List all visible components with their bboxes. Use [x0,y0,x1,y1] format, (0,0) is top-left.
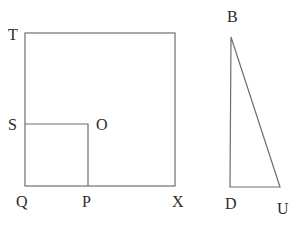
outer-square [25,33,175,186]
label-t: T [8,26,18,43]
label-x: X [172,193,184,210]
label-q: Q [16,193,28,210]
label-s: S [8,116,17,133]
geometry-diagram: T S O Q P X B D U [0,0,300,230]
right-triangle [230,37,280,187]
label-u: U [277,200,289,217]
inner-square [25,124,88,186]
label-p: P [82,193,91,210]
label-o: O [96,116,108,133]
label-b: B [227,8,238,25]
label-d: D [225,195,237,212]
